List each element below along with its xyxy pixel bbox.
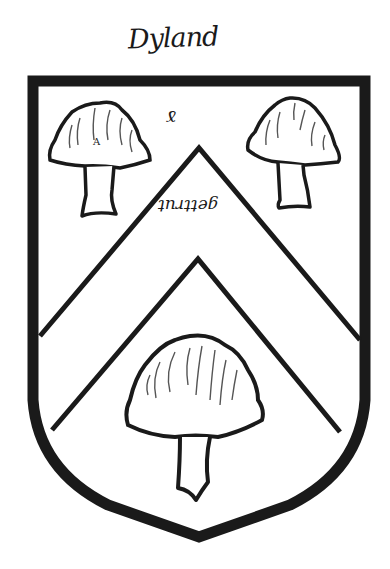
coat-of-arms [0,0,390,569]
title-inscription: Dyland [127,20,218,54]
cap-letter-annotation: A [93,136,100,147]
tincture-annotation: gettrut [158,196,219,216]
cross-mark-annotation: ɤ [166,106,177,130]
